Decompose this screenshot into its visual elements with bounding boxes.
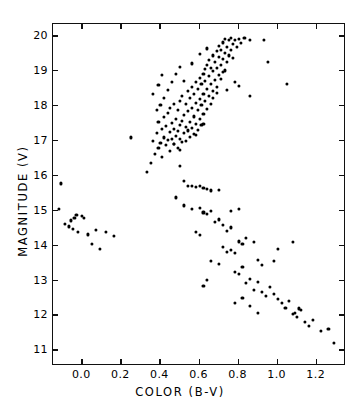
data-point: [239, 42, 242, 45]
data-point: [186, 110, 189, 113]
x-tick-label: 1.0: [267, 368, 286, 381]
data-point: [229, 210, 232, 213]
data-point: [210, 103, 213, 106]
data-point: [233, 270, 236, 273]
data-point: [202, 123, 205, 126]
data-point: [235, 45, 238, 48]
y-tick-label: 18: [18, 99, 48, 112]
x-tick-top: [120, 23, 121, 29]
data-point: [161, 74, 164, 77]
data-point: [186, 90, 189, 93]
data-point: [171, 81, 174, 84]
data-point: [237, 84, 240, 87]
data-point: [237, 37, 240, 40]
data-point: [200, 83, 203, 86]
data-point: [319, 330, 322, 333]
data-point: [98, 248, 101, 251]
data-point: [241, 265, 244, 268]
data-point: [231, 42, 234, 45]
data-point: [241, 242, 244, 245]
data-point: [225, 46, 228, 49]
data-point: [212, 54, 215, 57]
data-point: [157, 84, 160, 87]
data-point: [167, 89, 170, 92]
x-tick: [277, 359, 278, 365]
data-point: [253, 241, 256, 244]
x-tick: [120, 359, 121, 365]
data-point: [184, 139, 187, 142]
data-point: [180, 119, 183, 122]
data-point: [196, 109, 199, 112]
data-point: [284, 306, 287, 309]
data-point: [75, 213, 78, 216]
data-point: [155, 132, 158, 135]
data-point: [192, 92, 195, 95]
data-point: [190, 185, 193, 188]
data-point: [214, 220, 217, 223]
data-point: [178, 65, 181, 68]
data-point: [71, 227, 74, 230]
data-point: [260, 263, 263, 266]
data-point: [249, 38, 252, 41]
data-point: [225, 61, 228, 64]
data-point: [198, 118, 201, 121]
data-point: [188, 120, 191, 123]
y-tick-label: 19: [18, 64, 48, 77]
x-tick: [238, 359, 239, 365]
data-point: [233, 302, 236, 305]
data-point: [257, 311, 260, 314]
data-point: [327, 327, 330, 330]
x-tick-top: [238, 23, 239, 29]
data-point: [190, 62, 193, 65]
data-point: [225, 229, 228, 232]
data-point: [221, 246, 224, 249]
data-point: [157, 120, 160, 123]
data-point: [202, 72, 205, 75]
data-point: [192, 115, 195, 118]
data-point: [294, 311, 297, 314]
data-point: [225, 250, 228, 253]
data-point: [292, 241, 295, 244]
y-tick-right: [339, 140, 345, 141]
data-point: [151, 92, 154, 95]
data-point: [73, 216, 76, 219]
data-point: [268, 285, 271, 288]
data-point: [253, 289, 256, 292]
data-point: [264, 295, 267, 298]
data-point: [216, 67, 219, 70]
data-point: [198, 206, 201, 209]
x-tick-top: [316, 23, 317, 29]
data-point: [206, 107, 209, 110]
data-point: [186, 129, 189, 132]
data-point: [196, 128, 199, 131]
x-tick-label: 0.8: [228, 368, 247, 381]
data-point: [216, 49, 219, 52]
data-point: [200, 104, 203, 107]
y-tick-right: [339, 349, 345, 350]
data-point: [210, 189, 213, 192]
data-point: [233, 252, 236, 255]
data-point: [221, 41, 224, 44]
data-point: [204, 68, 207, 71]
y-tick-label: 20: [18, 29, 48, 42]
y-tick: [52, 349, 58, 350]
data-point: [266, 61, 269, 64]
x-tick-label: 1.2: [306, 368, 325, 381]
data-point: [190, 106, 193, 109]
data-point: [229, 49, 232, 52]
data-point: [257, 281, 260, 284]
data-point: [198, 234, 201, 237]
data-point: [241, 296, 244, 299]
data-point: [173, 142, 176, 145]
data-point: [311, 318, 314, 321]
data-point: [167, 111, 170, 114]
data-point: [212, 97, 215, 100]
data-point: [233, 81, 236, 84]
data-point: [221, 57, 224, 60]
x-tick-label: 0.4: [150, 368, 169, 381]
data-point: [229, 36, 232, 39]
y-tick-right: [339, 175, 345, 176]
y-tick-right: [339, 210, 345, 211]
data-point: [67, 225, 70, 228]
data-point: [217, 218, 220, 221]
